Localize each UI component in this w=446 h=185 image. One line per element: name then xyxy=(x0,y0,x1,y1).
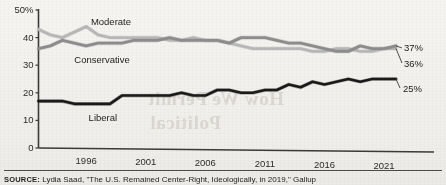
series-label-liberal: Liberal xyxy=(89,112,118,123)
x-axis-tick-label: 2011 xyxy=(249,158,281,169)
source-text: Lydia Saad, "The U.S. Remained Center-Ri… xyxy=(42,175,316,184)
x-axis-tick-label: 2016 xyxy=(309,159,341,170)
x-axis-line xyxy=(39,148,435,152)
source-note: SOURCE: Lydia Saad, "The U.S. Remained C… xyxy=(4,175,444,184)
series-label-conservative: Conservative xyxy=(74,54,129,65)
source-prefix: SOURCE: xyxy=(4,175,40,184)
chart-svg xyxy=(0,0,446,185)
series-group-liberal xyxy=(39,79,397,104)
y-axis-tick-label: 0 xyxy=(28,142,33,153)
x-axis-tick-label: 2021 xyxy=(368,160,400,171)
x-axis-tick-label: 2001 xyxy=(130,156,162,167)
end-value-label-moderate: 36% xyxy=(404,58,423,69)
end-value-label-conservative: 37% xyxy=(404,42,423,53)
series-line-liberal xyxy=(39,79,397,104)
y-axis-tick-label: 40 xyxy=(23,32,34,43)
y-axis-tick-label: 50% xyxy=(14,4,33,15)
y-axis-tick-label: 20 xyxy=(23,87,34,98)
end-label-leader-liberal xyxy=(396,79,400,88)
y-axis-tick-label: 10 xyxy=(23,114,34,125)
series-label-moderate: Moderate xyxy=(91,16,131,27)
end-label-leader-moderate xyxy=(396,49,402,63)
source-divider-rule xyxy=(4,170,442,171)
x-axis-tick-label: 1996 xyxy=(70,155,102,166)
line-chart xyxy=(0,0,446,185)
x-axis-tick-label: 2006 xyxy=(189,157,221,168)
end-value-label-liberal: 25% xyxy=(403,83,422,94)
y-axis-tick-label: 30 xyxy=(23,59,34,70)
